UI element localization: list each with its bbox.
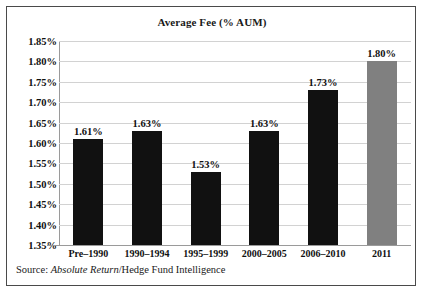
- bar[interactable]: 1.63%: [132, 41, 162, 245]
- y-axis-tick-labels: 1.85%1.80%1.75%1.70%1.65%1.60%1.55%1.50%…: [7, 41, 57, 246]
- bar[interactable]: 1.73%: [308, 41, 338, 245]
- gridline: [59, 61, 411, 62]
- y-axis-tick-label: 1.85%: [11, 36, 57, 47]
- gridline: [59, 41, 411, 42]
- y-axis-tick-label: 1.40%: [11, 219, 57, 230]
- chart-title: Average Fee (% AUM): [7, 16, 417, 28]
- gridline: [59, 204, 411, 205]
- bar-rect[interactable]: [132, 131, 162, 245]
- gridline: [59, 163, 411, 164]
- x-axis-category-label: 1995–1999: [176, 248, 235, 259]
- y-axis-tick-label: 1.65%: [11, 117, 57, 128]
- source-prefix: Source:: [16, 264, 51, 275]
- y-axis-tick-label: 1.75%: [11, 76, 57, 87]
- x-axis-category-label: 2000–2005: [235, 248, 294, 259]
- bar-value-label: 1.80%: [367, 48, 396, 59]
- plot-area: 1.61%1.63%1.53%1.63%1.73%1.80%: [59, 41, 411, 245]
- gridline: [59, 123, 411, 124]
- x-axis-category-label: 2006–2010: [294, 248, 353, 259]
- bar-value-label: 1.53%: [191, 159, 220, 170]
- bar[interactable]: 1.80%: [367, 41, 397, 245]
- y-axis-tick-label: 1.60%: [11, 138, 57, 149]
- gridline: [59, 102, 411, 103]
- bar-value-label: 1.61%: [74, 126, 103, 137]
- y-axis-tick-label: 1.55%: [11, 158, 57, 169]
- x-axis-category-label: 2011: [352, 248, 411, 259]
- bar-rect[interactable]: [73, 139, 103, 245]
- bar-rect[interactable]: [191, 172, 221, 245]
- bar-rect[interactable]: [308, 90, 338, 245]
- y-axis-tick-label: 1.45%: [11, 199, 57, 210]
- y-axis-tick-label: 1.70%: [11, 97, 57, 108]
- bar-value-label: 1.73%: [309, 77, 338, 88]
- x-axis-category-label: Pre–1990: [59, 248, 118, 259]
- source-note: Source: Absolute Return/Hedge Fund Intel…: [16, 264, 225, 275]
- source-rest: /Hedge Fund Intelligence: [119, 264, 226, 275]
- x-axis-category-label: 1990–1994: [118, 248, 177, 259]
- gridline: [59, 82, 411, 83]
- gridline: [59, 225, 411, 226]
- bar[interactable]: 1.61%: [73, 41, 103, 245]
- bar-rect[interactable]: [249, 131, 279, 245]
- bar-value-label: 1.63%: [250, 118, 279, 129]
- figure-frame: Average Fee (% AUM) 1.85%1.80%1.75%1.70%…: [6, 6, 416, 286]
- source-publication: Absolute Return: [51, 264, 119, 275]
- gridline: [59, 143, 411, 144]
- y-axis-tick-label: 1.80%: [11, 56, 57, 67]
- bar-value-label: 1.63%: [133, 118, 162, 129]
- bar-rect[interactable]: [367, 61, 397, 245]
- x-axis-line: [47, 245, 411, 246]
- bar[interactable]: 1.53%: [191, 41, 221, 245]
- bar[interactable]: 1.63%: [249, 41, 279, 245]
- y-axis-tick-label: 1.50%: [11, 178, 57, 189]
- gridline: [59, 184, 411, 185]
